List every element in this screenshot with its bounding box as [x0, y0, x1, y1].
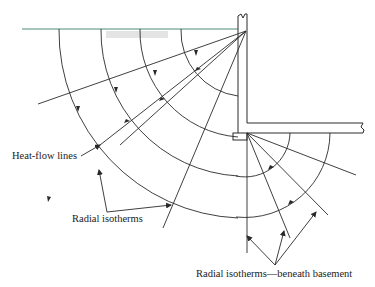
label-radial-isotherms-basement: Radial isotherms—beneath basement	[196, 268, 352, 279]
radial-isotherms-upper	[59, 29, 238, 218]
ground-shading	[106, 31, 168, 38]
flow-arrows-basement	[268, 165, 294, 205]
label-leaders	[81, 145, 316, 265]
label-heat-flow-lines: Heat-flow lines	[12, 150, 77, 161]
basement-heat-flow-diagram	[0, 0, 375, 287]
heat-flow-lines-upper	[38, 31, 246, 228]
basement-floor-slab	[247, 123, 364, 133]
label-radial-isotherms: Radial isotherms	[72, 213, 143, 224]
radial-isotherms-basement	[236, 133, 330, 217]
heat-flow-lines-basement	[247, 133, 356, 253]
